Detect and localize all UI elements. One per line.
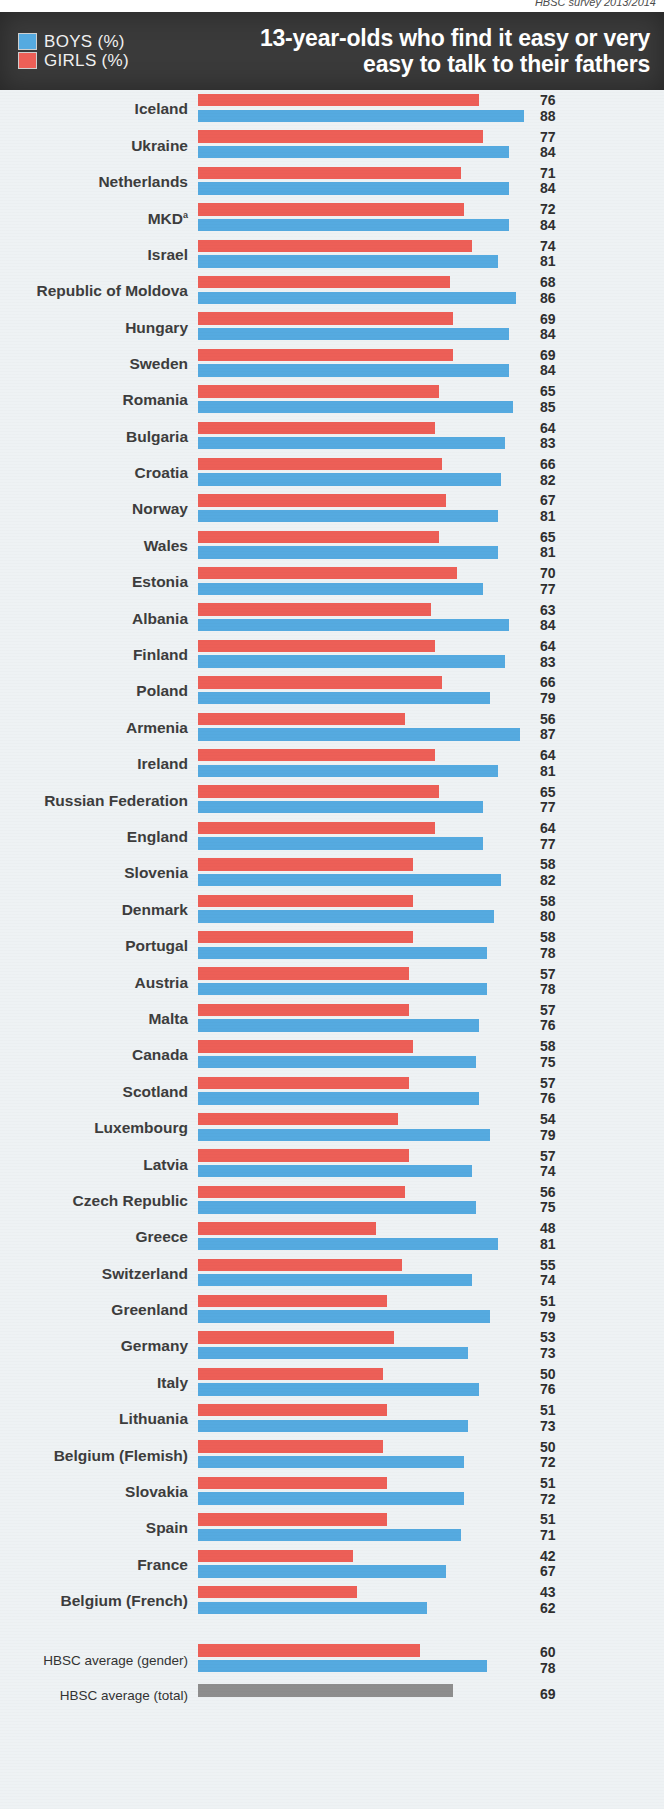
girls-value: 58 [540, 930, 556, 946]
boys-bar [198, 473, 501, 485]
girls-bar [198, 1113, 398, 1125]
boys-value: 76 [540, 1091, 556, 1107]
country-label: Israel [0, 245, 188, 262]
value-labels: 5776 [540, 1075, 556, 1106]
girls-value: 58 [540, 893, 556, 909]
bar-group [198, 1149, 472, 1177]
boys-bar [198, 1092, 479, 1104]
girls-bar [198, 895, 413, 907]
bar-group [198, 713, 520, 741]
bar-group [198, 167, 509, 195]
boys-bar [198, 1383, 479, 1395]
girls-bar [198, 276, 450, 288]
bar-group [198, 1222, 498, 1250]
boys-value: 84 [540, 181, 556, 197]
bar-group [198, 1040, 476, 1068]
boys-bar [198, 1201, 476, 1213]
boys-value: 77 [540, 581, 556, 597]
bar-group [198, 822, 483, 850]
girls-value: 72 [540, 202, 556, 218]
country-label: Spain [0, 1519, 188, 1536]
boys-bar [198, 583, 483, 595]
boys-bar [198, 874, 501, 886]
chart-title: 13-year-olds who find it easy or very ea… [220, 25, 650, 77]
average-gender-bars [198, 1644, 487, 1672]
boys-bar [198, 910, 494, 922]
table-row: Denmark5880 [0, 891, 664, 927]
girls-bar [198, 1368, 383, 1380]
boys-bar [198, 1529, 461, 1541]
average-total-value: 69 [540, 1688, 556, 1704]
country-label: Denmark [0, 900, 188, 917]
boys-value: 74 [540, 1273, 556, 1289]
boys-value: 87 [540, 727, 556, 743]
bar-group [198, 640, 505, 668]
value-labels: 5171 [540, 1512, 556, 1543]
country-label: Latvia [0, 1155, 188, 1172]
source-note: HBSC survey 2013/2014 [535, 0, 656, 8]
girls-value: 55 [540, 1257, 556, 1273]
country-label: Armenia [0, 718, 188, 735]
girls-bar [198, 1331, 394, 1343]
average-total-bar [198, 1684, 453, 1696]
table-row: Lithuania5173 [0, 1400, 664, 1436]
bar-group [198, 931, 487, 959]
chart-body: Iceland7688Ukraine7784Netherlands7184MKD… [0, 90, 664, 1809]
country-label: Ireland [0, 755, 188, 772]
value-labels: 6483 [540, 420, 556, 451]
boys-value: 82 [540, 872, 556, 888]
country-label: Portugal [0, 937, 188, 954]
girls-bar [198, 676, 442, 688]
bar-group [198, 276, 516, 304]
bar-group [198, 1113, 490, 1141]
girls-bar [198, 785, 439, 797]
bar-group [198, 1331, 468, 1359]
table-row: Croatia6682 [0, 454, 664, 490]
boys-value: 77 [540, 836, 556, 852]
bar-group [198, 1004, 479, 1032]
girls-value: 42 [540, 1548, 556, 1564]
table-row: Canada5875 [0, 1036, 664, 1072]
bar-group [198, 458, 501, 486]
red-swatch-icon [18, 52, 37, 69]
table-row: Austria5778 [0, 963, 664, 999]
boys-value: 80 [540, 909, 556, 925]
country-label: Canada [0, 1046, 188, 1063]
girls-bar [198, 312, 453, 324]
table-row: Slovakia5172 [0, 1473, 664, 1509]
girls-bar [198, 822, 435, 834]
girls-value: 50 [540, 1439, 556, 1455]
boys-bar [198, 182, 509, 194]
boys-bar [198, 1456, 464, 1468]
average-gender-values: 60 78 [540, 1645, 556, 1676]
boys-value: 81 [540, 254, 556, 270]
value-labels: 5778 [540, 966, 556, 997]
value-labels: 5687 [540, 711, 556, 742]
girls-bar [198, 640, 435, 652]
girls-bar [198, 385, 439, 397]
bar-group [198, 312, 509, 340]
country-label: Ukraine [0, 136, 188, 153]
bar-group [198, 349, 509, 377]
value-labels: 6483 [540, 639, 556, 670]
girls-bar [198, 1404, 387, 1416]
girls-bar [198, 931, 413, 943]
value-labels: 4881 [540, 1221, 556, 1252]
bar-group [198, 676, 490, 704]
bar-group [198, 785, 483, 813]
table-row: Romania6585 [0, 381, 664, 417]
source-strip: HBSC survey 2013/2014 [0, 0, 664, 12]
girls-value: 64 [540, 821, 556, 837]
bar-group [198, 130, 509, 158]
girls-bar [198, 422, 435, 434]
girls-bar [198, 603, 431, 615]
boys-bar [198, 1420, 468, 1432]
girls-value: 71 [540, 165, 556, 181]
bar-group [198, 749, 498, 777]
boys-value: 79 [540, 690, 556, 706]
boys-value: 72 [540, 1491, 556, 1507]
girls-value: 54 [540, 1112, 556, 1128]
boys-value: 67 [540, 1564, 556, 1580]
bar-group [198, 1077, 479, 1105]
country-label: France [0, 1555, 188, 1572]
